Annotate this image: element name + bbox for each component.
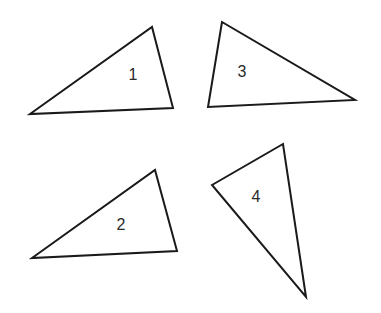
triangle-2-shape (32, 170, 177, 258)
triangles-diagram: 1 2 3 4 (0, 0, 381, 313)
triangle-1-label: 1 (129, 66, 138, 83)
triangle-2: 2 (32, 170, 177, 258)
triangle-3-label: 3 (238, 63, 247, 80)
triangle-4: 4 (212, 144, 306, 297)
triangle-3-shape (208, 22, 355, 107)
triangle-4-shape (212, 144, 306, 297)
triangle-1: 1 (30, 27, 173, 114)
triangle-4-label: 4 (252, 188, 261, 205)
triangle-1-shape (30, 27, 173, 114)
triangle-3: 3 (208, 22, 355, 107)
triangle-2-label: 2 (117, 216, 126, 233)
